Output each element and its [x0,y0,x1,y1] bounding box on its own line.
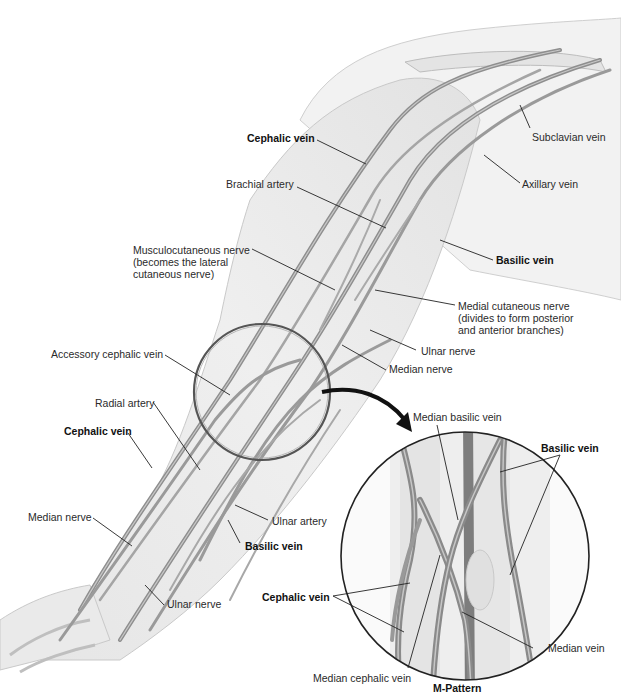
label-basilic-vein-upper: Basilic vein [496,254,554,266]
label-ulnar-artery: Ulnar artery [272,515,327,527]
label-median-nerve-forearm: Median nerve [28,511,92,523]
label-axillary-vein: Axillary vein [522,178,578,190]
inset-title-m-pattern: M-Pattern [433,682,481,694]
label-radial-artery: Radial artery [95,397,155,409]
inset-label-median-basilic-vein: Median basilic vein [413,411,502,423]
label-medial-cutaneous-nerve: Medial cutaneous nerve (divides to form … [458,300,574,336]
label-ulnar-nerve-upper: Ulnar nerve [421,345,475,357]
label-subclavian-vein: Subclavian vein [532,131,606,143]
anatomy-figure: Cephalic vein Brachial artery Subclavian… [0,0,621,700]
label-cephalic-vein-forearm: Cephalic vein [64,425,132,437]
inset-label-median-vein: Median vein [548,642,605,654]
label-cephalic-vein-upper: Cephalic vein [247,132,315,144]
inset-circle [341,420,589,700]
inset-label-basilic-vein: Basilic vein [541,442,599,454]
label-basilic-vein-forearm: Basilic vein [245,540,303,552]
label-ulnar-nerve-forearm: Ulnar nerve [167,598,221,610]
inset-label-cephalic-vein: Cephalic vein [262,591,330,603]
label-brachial-artery: Brachial artery [226,178,294,190]
label-accessory-cephalic-vein: Accessory cephalic vein [51,348,163,360]
label-median-nerve-upper: Median nerve [389,363,453,375]
inset-label-median-cephalic-vein: Median cephalic vein [313,672,411,684]
label-musculocutaneous-nerve: Musculocutaneous nerve (becomes the late… [133,244,250,280]
